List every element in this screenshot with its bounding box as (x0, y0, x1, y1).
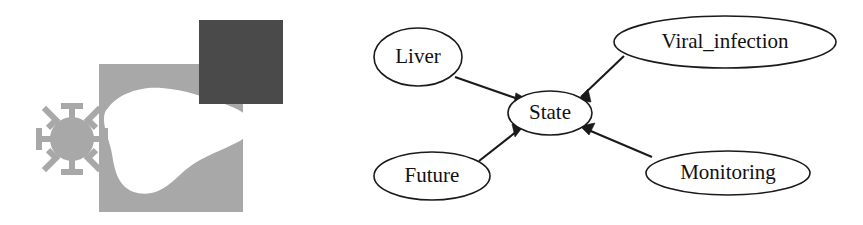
node-future-label: Future (405, 163, 460, 187)
figure-root: Liver Viral_infection State Future (0, 0, 863, 225)
node-future[interactable]: Future (374, 152, 490, 200)
edge-liver-state-line (455, 77, 521, 100)
node-liver[interactable]: Liver (374, 28, 462, 86)
node-liver-label: Liver (395, 44, 440, 68)
edge-viral-infection-state (578, 56, 624, 102)
node-state-label: State (529, 100, 571, 124)
bayesian-network-panel: Liver Viral_infection State Future (330, 0, 863, 225)
node-monitoring-label: Monitoring (680, 160, 776, 184)
liver-virus-icon (0, 0, 330, 225)
edge-monitoring-state (580, 123, 652, 157)
node-viral-infection[interactable]: Viral_infection (614, 16, 836, 68)
virus-particle (36, 103, 108, 175)
node-state[interactable]: State (508, 91, 592, 135)
bayesian-network-graph: Liver Viral_infection State Future (330, 0, 863, 225)
edge-monitoring-state-line (586, 129, 652, 157)
node-viral-infection-label: Viral_infection (661, 29, 789, 53)
node-monitoring[interactable]: Monitoring (646, 151, 810, 195)
liver-virus-icon-panel (0, 0, 330, 225)
graph-nodes: Liver Viral_infection State Future (374, 16, 836, 200)
edge-future-state (479, 124, 525, 161)
dark-gray-square (199, 20, 283, 104)
